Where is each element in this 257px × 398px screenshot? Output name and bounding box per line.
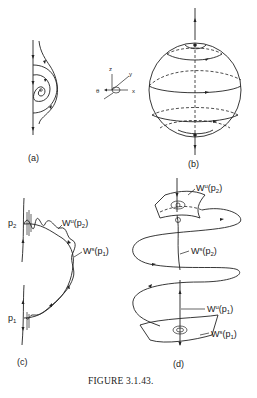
panel-a-label: (a) (28, 153, 39, 163)
wu-p2-label-d: Wu(p2) (196, 183, 222, 194)
panel-d-label: (d) (173, 359, 184, 369)
panel-c-label: (c) (17, 357, 28, 367)
panel-a-phase-portrait (32, 40, 58, 135)
axes-icon (104, 74, 129, 99)
axis-z-label: z (109, 66, 112, 72)
panel-b-label: (b) (188, 159, 199, 169)
panel-b-sphere (149, 8, 241, 155)
wu-p2-label-c: Wu(p2) (62, 218, 88, 229)
p1-label: p1 (8, 313, 17, 324)
axis-theta-label: θ (96, 88, 100, 94)
ws-p1-label-c: Ws(p1) (83, 246, 109, 257)
wu-p1-label-d: Wu(p1) (207, 304, 233, 315)
figure-caption: FIGURE 3.1.43. (88, 376, 154, 386)
ws-p1-label-d: Ws(p1) (211, 329, 237, 340)
axis-x-label: x (132, 88, 135, 94)
ws-p2-label-d: Ws(p2) (191, 246, 217, 257)
panel-d-manifolds (133, 178, 241, 346)
p2-label: p2 (8, 218, 17, 229)
axis-y-label: y (129, 71, 132, 77)
figure-3-1-43: (a) z y x θ (b) (0, 0, 257, 398)
